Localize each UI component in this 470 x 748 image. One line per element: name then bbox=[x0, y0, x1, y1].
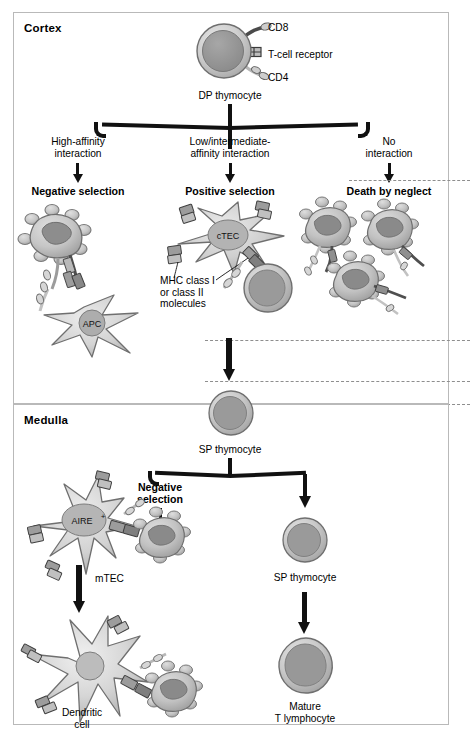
branch-condition-no-interaction: No interaction bbox=[365, 136, 412, 159]
region-label-cortex: Cortex bbox=[24, 22, 62, 34]
label-sp-thymocyte-survivor: SP thymocyte bbox=[274, 572, 337, 584]
branch-condition-low-affinity: Low/intermediate- affinity interaction bbox=[190, 136, 271, 159]
arrow-head-neglect bbox=[384, 174, 394, 183]
region-label-medulla: Medulla bbox=[24, 414, 68, 426]
negative-selection-artwork: APC bbox=[14, 203, 154, 358]
dashed-rule-2 bbox=[205, 340, 470, 341]
arrow-stem-to-medulla bbox=[226, 338, 232, 372]
label-mature-t-lymphocyte: Mature T lymphocyte bbox=[275, 701, 335, 724]
outcome-death-by-neglect: Death by neglect bbox=[347, 186, 432, 198]
outcome-positive-selection: Positive selection bbox=[185, 186, 275, 198]
figure-canvas: Cortex bbox=[0, 0, 470, 748]
arrow-head-to-medulla bbox=[223, 369, 235, 381]
arrow-head-neg bbox=[73, 174, 83, 183]
label-cd8: CD8 bbox=[268, 22, 288, 34]
mature-t-lymphocyte-cell bbox=[274, 634, 338, 698]
label-mtec: mTEC bbox=[95, 573, 124, 585]
label-sp-thymocyte-entry: SP thymocyte bbox=[199, 444, 262, 456]
dashed-rule-1 bbox=[349, 180, 470, 181]
arrow-head-to-mature bbox=[298, 622, 310, 634]
label-dp-thymocyte: DP thymocyte bbox=[198, 90, 261, 102]
annotation-mhc-molecules: MHC class I or class II molecules bbox=[160, 275, 215, 310]
arrow-stem-to-dendritic bbox=[76, 565, 82, 605]
svg-text:AIRE: AIRE bbox=[71, 516, 92, 526]
svg-text:cTEC: cTEC bbox=[217, 231, 240, 241]
connector-trunk bbox=[228, 104, 232, 127]
sp-thymocyte-entry-cell bbox=[203, 385, 259, 441]
death-by-neglect-artwork bbox=[296, 198, 436, 333]
label-tcr: T-cell receptor bbox=[268, 49, 333, 61]
svg-text:APC: APC bbox=[83, 319, 102, 329]
arrow-head-pos bbox=[225, 174, 235, 183]
svg-text:+: + bbox=[101, 512, 106, 521]
branch-condition-high-affinity: High-affinity interaction bbox=[51, 136, 105, 159]
arrow-head-medulla-right bbox=[299, 496, 311, 508]
dashed-rule-3 bbox=[205, 381, 470, 382]
label-cd4: CD4 bbox=[268, 72, 288, 84]
label-dendritic-cell: Dendritic cell bbox=[62, 707, 102, 730]
arrow-stem-to-mature bbox=[302, 592, 307, 626]
dendritic-cell-artwork bbox=[16, 612, 211, 727]
positive-selection-artwork: cTEC bbox=[156, 200, 306, 330]
sp-thymocyte-survivor-cell bbox=[277, 512, 333, 568]
outcome-negative-selection: Negative selection bbox=[31, 186, 124, 198]
